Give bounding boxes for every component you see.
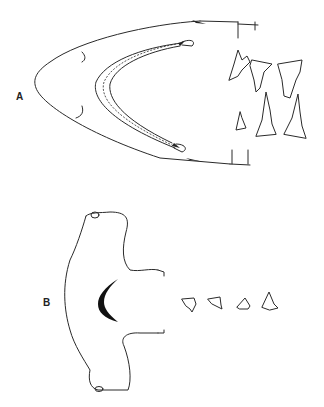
figure-drawing: [0, 0, 324, 407]
panel-b-head: [65, 212, 164, 392]
panel-a-head: [35, 20, 258, 165]
panel-a-teeth: [229, 50, 306, 138]
panel-b-teeth: [182, 292, 278, 312]
